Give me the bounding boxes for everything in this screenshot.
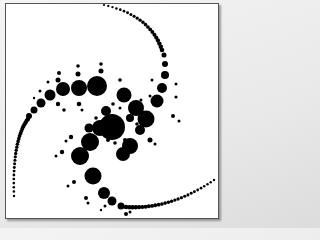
tail-dot-left [14, 155, 17, 158]
tail-dot-left [13, 174, 16, 177]
large-circle [126, 114, 134, 122]
small-dot [111, 102, 115, 106]
tail-dot-bottom [163, 201, 167, 205]
tail-dot-left [13, 186, 16, 189]
tail-dot-left [13, 190, 15, 192]
small-dot [72, 180, 76, 184]
large-circle [45, 90, 56, 101]
tail-dot-bottom [153, 203, 157, 207]
large-circle [108, 197, 117, 206]
tail-dot-left [15, 145, 18, 148]
small-dot [148, 138, 153, 143]
tail-dot-top [160, 48, 165, 53]
tail-dot-bottom [203, 185, 206, 188]
small-dot [94, 116, 98, 120]
tail-dot-top [136, 17, 139, 20]
tail-dot-bottom [200, 187, 203, 190]
tail-dot-bottom [190, 192, 193, 195]
large-circle [85, 124, 94, 133]
small-dot [67, 185, 70, 188]
tail-dot-left [12, 178, 15, 181]
tail-dot-left [13, 162, 16, 165]
large-circle [101, 106, 111, 116]
small-dot [62, 108, 66, 112]
tail-dot-bottom [170, 199, 173, 202]
large-circle [85, 168, 102, 185]
small-dot [135, 122, 139, 126]
tail-dot-bottom [213, 179, 215, 181]
large-circle [87, 76, 107, 96]
large-circle [56, 82, 70, 96]
small-dot [178, 120, 181, 123]
tail-dot-left [13, 195, 15, 197]
tail-dot-top [115, 7, 118, 10]
tail-dot-top [123, 10, 126, 13]
small-dot [47, 81, 50, 84]
small-dot [87, 202, 90, 205]
tail-dot-bottom [196, 189, 199, 192]
small-dot [99, 69, 104, 74]
small-dot [57, 71, 61, 75]
large-circle [92, 120, 108, 136]
tail-dot-left [13, 170, 16, 173]
small-dot [76, 64, 80, 68]
small-dot [55, 155, 58, 158]
tail-dot-top [129, 13, 132, 16]
tail-dot-top [138, 19, 141, 22]
tail-dot-bottom [206, 183, 209, 186]
tail-dot-top [111, 6, 113, 8]
large-circle [151, 95, 164, 108]
large-circle [117, 88, 132, 103]
tail-dot-top [103, 4, 105, 6]
small-dot [39, 90, 42, 93]
tail-dot-left [14, 152, 17, 155]
large-circle [162, 61, 168, 67]
tail-dot-left [13, 159, 16, 162]
tail-dot-bottom [176, 197, 179, 200]
tail-dot-bottom [183, 195, 186, 198]
small-dot [56, 102, 60, 106]
small-dot [65, 140, 68, 143]
small-dot [119, 107, 122, 110]
small-dot [123, 138, 127, 142]
small-dot [77, 102, 82, 107]
large-circle [98, 187, 110, 199]
tail-dot-bottom [160, 202, 164, 206]
tail-dot-left [16, 143, 20, 147]
small-dot [140, 99, 143, 102]
small-dot [69, 135, 73, 139]
small-dot [104, 205, 107, 208]
tail-dot-bottom [173, 198, 176, 201]
small-dot [84, 196, 88, 200]
tail-dot-left [15, 149, 18, 152]
large-circle [71, 80, 87, 96]
small-dot [124, 212, 128, 216]
tail-dot-left [13, 166, 16, 169]
tail-dot-top [119, 8, 122, 11]
tail-dot-bottom [193, 190, 196, 193]
spiral-fractal-artwork [0, 0, 226, 228]
large-circle [135, 125, 145, 135]
large-circle [162, 53, 167, 58]
large-circle [118, 203, 125, 210]
small-dot [129, 211, 132, 214]
small-dot [76, 72, 81, 77]
tail-dot-bottom [186, 193, 189, 196]
small-dot [171, 114, 175, 118]
tail-dot-top [133, 15, 136, 18]
tail-dot-bottom [157, 203, 161, 207]
tail-dot-bottom [209, 181, 211, 183]
small-dot [81, 109, 84, 112]
large-circle [161, 71, 169, 79]
small-dot [106, 138, 110, 142]
large-circle [116, 147, 130, 161]
tail-dot-top [126, 11, 129, 14]
tail-dot-bottom [167, 200, 171, 204]
large-circle [138, 111, 155, 128]
large-circle [71, 147, 89, 165]
large-circle [37, 99, 46, 108]
small-dot [149, 95, 152, 98]
small-dot [151, 79, 154, 82]
small-dot [118, 78, 122, 82]
small-dot [100, 209, 102, 211]
